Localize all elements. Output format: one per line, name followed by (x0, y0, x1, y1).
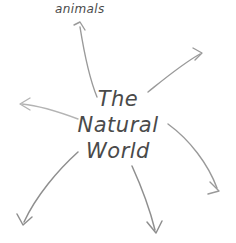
mindmap-canvas: animals The Natural World (0, 0, 236, 243)
center-node-line-3: World (55, 138, 181, 164)
arrow-bottom (132, 166, 162, 233)
branch-label-animals: animals (55, 2, 105, 16)
arrow-upper-right-head (193, 48, 202, 60)
arrow-bottom-shaft (132, 166, 155, 230)
center-node: The Natural World (55, 86, 181, 164)
center-node-line-2: Natural (55, 112, 181, 138)
arrow-animals-head (74, 22, 85, 30)
center-node-line-1: The (55, 86, 181, 112)
